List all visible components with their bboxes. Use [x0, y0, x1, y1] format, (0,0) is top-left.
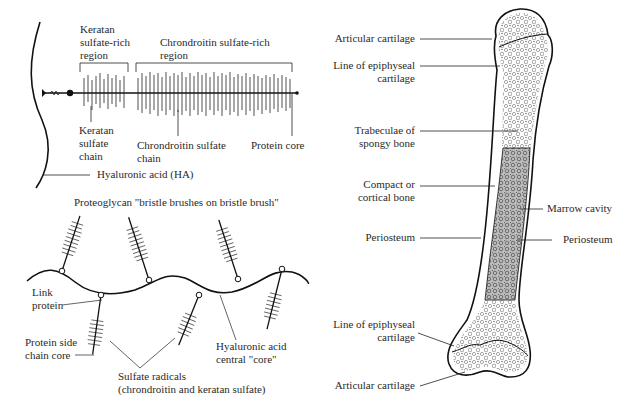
link-protein-circles — [59, 266, 285, 298]
text-line: region — [160, 49, 270, 62]
keratan-region-bracket — [80, 63, 128, 72]
epiphyseal-top-label: Line of epiphyseal cartilage — [333, 59, 415, 85]
keratan-chain-label: Keratan sulfate chain — [79, 124, 114, 163]
hyaluronic-core-label: Hyaluronic acid central "core" — [216, 340, 287, 366]
marrow-cavity-label: Marrow cavity — [547, 202, 612, 215]
text-line: cartilage — [333, 72, 415, 85]
ha-central-core — [27, 270, 308, 294]
head-spongy — [499, 13, 548, 148]
protein-side-chain-label: Protein side chain core — [25, 336, 77, 362]
epiphyseal-bottom-label: Line of epiphyseal cartilage — [333, 318, 415, 344]
chondroitin-region-label: Chrondroitin sulfate-rich region — [160, 36, 270, 62]
periosteum-left-label: Periosteum — [366, 231, 416, 244]
text-line: cortical bone — [358, 191, 415, 204]
hyaluronic-acid-strand — [31, 22, 48, 188]
trabeculae-label: Trabeculae of spongy bone — [355, 124, 415, 150]
periosteum-right-label: Periosteum — [563, 233, 613, 246]
text-line: Line of epiphyseal — [333, 318, 415, 331]
text-line: Compact or — [358, 178, 415, 191]
text-line: protein — [32, 299, 63, 312]
keratan-region-label: Keratan sulfate-rich region — [80, 23, 130, 62]
distal-spongy — [453, 300, 527, 372]
text-line: Link — [32, 286, 63, 299]
text-line: sulfate — [79, 137, 114, 150]
text-line: Sulfate radicals — [118, 370, 266, 383]
text-line: Keratan — [79, 124, 114, 137]
text-line: Hyaluronic acid — [216, 340, 287, 353]
text-line: chain — [137, 152, 226, 165]
text-line: Trabeculae of — [355, 124, 415, 137]
chondroitin-region-bracket — [136, 63, 292, 72]
hyaluronic-acid-label: Hyaluronic acid (HA) — [97, 168, 194, 181]
text-line: chain core — [25, 349, 77, 362]
chondroitin-chain-label: Chrondroitin sulfate chain — [137, 139, 226, 165]
text-line: Line of epiphyseal — [333, 59, 415, 72]
text-line: region — [80, 49, 130, 62]
text-line: chain — [79, 150, 114, 163]
text-line: (chrondroitin and keratan sulfate) — [118, 383, 266, 396]
text-line: cartilage — [333, 331, 415, 344]
articular-cartilage-top-label: Articular cartilage — [335, 32, 415, 45]
text-line: Chrondroitin sulfate — [137, 139, 226, 152]
text-line: central "core" — [216, 353, 287, 366]
link-protein-label: Link protein — [32, 286, 63, 312]
long-bone — [448, 9, 552, 377]
chondroitin-bristles — [138, 72, 290, 116]
sulfate-radicals-label: Sulfate radicals (chrondroitin and kerat… — [118, 370, 266, 396]
text-line: Keratan — [80, 23, 130, 36]
protein-core-label: Protein core — [251, 139, 304, 152]
keratan-bristles — [84, 73, 124, 110]
bristle-brush-title: Proteoglycan "bristle brushes on bristle… — [74, 196, 279, 209]
articular-cartilage-bottom-label: Articular cartilage — [335, 379, 415, 392]
text-line: Chrondroitin sulfate-rich — [160, 36, 270, 49]
text-line: Protein side — [25, 336, 77, 349]
text-line: sulfate-rich — [80, 36, 130, 49]
text-line: spongy bone — [355, 137, 415, 150]
compact-bone-label: Compact or cortical bone — [358, 178, 415, 204]
